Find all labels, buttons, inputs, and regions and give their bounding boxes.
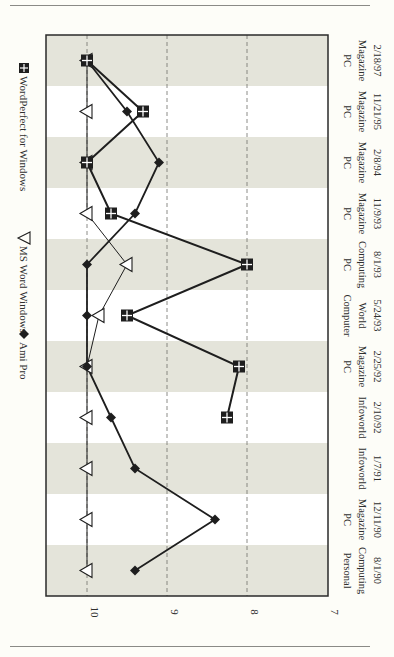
category-label: 12/11/90 xyxy=(372,501,383,538)
category-label: 2/18/97 xyxy=(372,44,383,76)
value-tick-label: 10 xyxy=(89,607,101,619)
category-label: Computer xyxy=(342,295,353,337)
category-label: PC xyxy=(342,54,353,67)
value-tick-label: 7 xyxy=(329,609,341,615)
legend-item: Ami Pro xyxy=(18,329,30,380)
category-label: Magazine xyxy=(357,346,368,388)
category-label: Magazine xyxy=(357,40,368,82)
category-label: 11/9/93 xyxy=(372,198,383,230)
square-cross-marker xyxy=(241,259,253,271)
category-label: 2/10/92 xyxy=(372,401,383,433)
category-label: PC xyxy=(342,156,353,169)
square-cross-marker xyxy=(105,208,117,220)
category-label: Computing xyxy=(357,241,368,289)
category-label: Magazine xyxy=(357,499,368,541)
value-tick-label: 9 xyxy=(169,609,181,615)
value-tick-label: 8 xyxy=(249,609,261,615)
category-label: Magazine xyxy=(357,193,368,235)
legend-label: WordPerfect for Windows xyxy=(18,76,30,191)
square-cross-marker xyxy=(221,412,233,424)
category-label: 5/24/93 xyxy=(372,299,383,331)
category-label: PC xyxy=(342,360,353,373)
category-axis-labels: PersonalComputing8/1/90PCMagazine12/11/9… xyxy=(342,40,383,595)
square-cross-marker xyxy=(121,310,133,322)
category-label: Infoworld xyxy=(357,448,368,491)
category-label: World xyxy=(357,303,368,330)
category-label: 1/7/91 xyxy=(372,455,383,482)
category-label: Infoworld xyxy=(357,397,368,440)
legend-label: MS Word Windows xyxy=(18,246,30,333)
legend-label: Ami Pro xyxy=(18,342,30,380)
legend-item: MS Word Windows xyxy=(18,232,30,333)
square-cross-marker xyxy=(137,106,149,118)
category-label: 2/25/92 xyxy=(372,350,383,382)
square-cross-marker xyxy=(81,55,93,67)
value-axis-ticks: 10987 xyxy=(89,607,341,619)
square-cross-marker xyxy=(233,361,245,373)
category-label: PC xyxy=(342,513,353,526)
legend: Ami ProMS Word WindowsWordPerfect for Wi… xyxy=(18,63,30,380)
category-label: Magazine xyxy=(357,91,368,133)
category-label: PC xyxy=(342,105,353,118)
rating-line-chart: 10987 PersonalComputing8/1/90PCMagazine1… xyxy=(0,0,394,657)
legend-square-cross-icon xyxy=(19,63,29,73)
category-label: Personal xyxy=(342,552,353,588)
category-label: 8/1/93 xyxy=(372,251,383,278)
category-label: PC xyxy=(342,207,353,220)
category-label: Computing xyxy=(357,547,368,595)
category-label: PC xyxy=(342,258,353,271)
square-cross-marker xyxy=(81,157,93,169)
legend-triangle-icon xyxy=(18,232,30,244)
legend-item: WordPerfect for Windows xyxy=(18,63,30,191)
category-label: 2/8/94 xyxy=(372,149,383,177)
category-label: Magazine xyxy=(357,142,368,184)
category-label: 11/21/95 xyxy=(372,93,383,130)
category-label: 8/1/90 xyxy=(372,557,383,584)
